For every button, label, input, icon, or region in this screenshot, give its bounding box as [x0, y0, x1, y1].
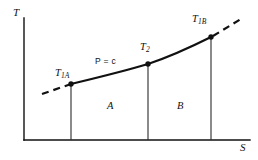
region-label-a: A — [107, 101, 113, 112]
isobar-annotation-label: P = c — [95, 57, 116, 66]
state-label-2-subscript: 2 — [146, 45, 150, 54]
state-label-1b-base: T — [192, 13, 198, 24]
state-label-2-base: T — [140, 41, 146, 52]
region-label-b: B — [177, 101, 183, 112]
x-axis-label: S — [240, 142, 246, 153]
state-point-2 — [145, 61, 150, 66]
isobar-dashed-left-extension — [42, 84, 71, 94]
ts-diagram-figure: T S T1A T2 T1B P = c A B — [0, 0, 258, 160]
y-axis-label: T — [13, 7, 19, 18]
state-label-1a: T1A — [55, 68, 69, 79]
state-label-1a-base: T — [55, 67, 61, 78]
state-label-1a-subscript: 1A — [61, 71, 69, 80]
state-label-1b-subscript: 1B — [198, 17, 206, 26]
state-point-1a — [68, 81, 73, 86]
isobar-dashed-right-extension — [213, 19, 241, 36]
state-point-1b — [208, 34, 213, 39]
ts-diagram-canvas — [0, 0, 258, 160]
state-label-1b: T1B — [192, 14, 206, 25]
state-label-2: T2 — [140, 42, 150, 53]
